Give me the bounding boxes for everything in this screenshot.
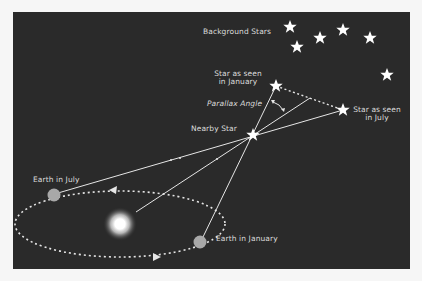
- line-arrow-icon: [170, 159, 172, 161]
- orbit-arrow-top-icon: [109, 186, 117, 194]
- star-july-icon: [336, 103, 349, 116]
- line-arrow-icon: [216, 158, 218, 160]
- earth-january-icon: [194, 236, 207, 249]
- parallax-angle-arc-icon: [273, 102, 283, 110]
- line-arrow-icon: [179, 157, 181, 159]
- label-star-july: Star as seen in July: [352, 106, 402, 122]
- background-star-icon: [380, 68, 393, 81]
- sun-icon: [103, 207, 137, 241]
- label-earth-january: Earth in January: [216, 235, 278, 243]
- arc-arrowhead-icon: [281, 108, 285, 112]
- background-star-icon: [290, 40, 303, 53]
- earth-july-icon: [48, 189, 61, 202]
- star-january-icon: [269, 79, 282, 92]
- background-star-icon: [363, 31, 376, 44]
- label-earth-july: Earth in July: [33, 176, 80, 184]
- label-star-january: Star as seen in January: [213, 70, 263, 86]
- background-star-icon: [283, 20, 296, 33]
- background-star-icon: [336, 23, 349, 36]
- label-background-stars: Background Stars: [203, 28, 271, 36]
- parallax-diagram: [0, 0, 422, 281]
- label-parallax-angle: Parallax Angle: [207, 100, 262, 108]
- label-line: in January: [213, 78, 263, 86]
- background-star-icon: [313, 31, 326, 44]
- sightline-july: [58, 110, 343, 193]
- label-line: in July: [352, 114, 402, 122]
- label-nearby-star: Nearby Star: [191, 125, 237, 133]
